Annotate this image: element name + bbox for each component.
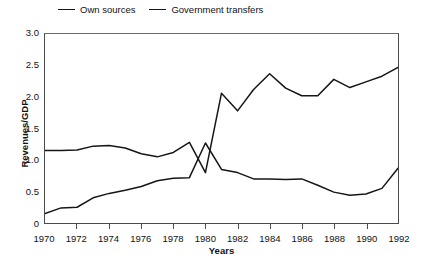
series-line-own-sources: [45, 143, 398, 214]
legend-line-swatch-government-transfers: [149, 9, 166, 10]
x-tick-label: 1978: [163, 233, 184, 244]
x-tick-label: 1982: [227, 233, 248, 244]
chart-legend: Own sources Government transfers: [58, 4, 263, 15]
legend-label-own-sources: Own sources: [80, 4, 135, 15]
series-line-government-transfers: [45, 67, 398, 172]
x-tick-label: 1986: [292, 233, 313, 244]
x-tick-label: 1992: [388, 233, 409, 244]
x-tick-label: 1972: [66, 233, 87, 244]
x-tick-label: 1984: [259, 233, 280, 244]
x-tick-mark: [76, 224, 77, 229]
x-tick-label: 1988: [324, 233, 345, 244]
x-tick-mark: [270, 224, 271, 229]
y-tick-label: 0: [34, 219, 39, 229]
x-axis-title: Years: [44, 245, 399, 256]
x-tick-mark: [141, 224, 142, 229]
x-tick-mark: [302, 224, 303, 229]
y-tick-label: 3.0: [26, 28, 39, 38]
y-tick-label: 2.5: [26, 60, 39, 70]
y-tick-label: 0.5: [26, 187, 39, 197]
legend-item-own-sources: Own sources: [58, 4, 135, 15]
x-tick-mark: [367, 224, 368, 229]
legend-item-government-transfers: Government transfers: [149, 4, 263, 15]
x-tick-mark: [334, 224, 335, 229]
x-tick-mark: [238, 224, 239, 229]
plot-area: [44, 33, 399, 224]
x-tick-label: 1990: [356, 233, 377, 244]
legend-label-government-transfers: Government transfers: [171, 4, 263, 15]
series-lines: [45, 34, 398, 223]
x-tick-label: 1970: [33, 233, 54, 244]
x-tick-mark: [173, 224, 174, 229]
y-axis-title: Revenues/GDP: [19, 79, 30, 189]
line-chart: Own sources Government transfers 00.51.0…: [0, 0, 422, 265]
x-tick-mark: [205, 224, 206, 229]
x-tick-mark: [109, 224, 110, 229]
x-tick-label: 1974: [98, 233, 119, 244]
x-tick-label: 1980: [195, 233, 216, 244]
x-axis-ticks: 1970197219741976197819801982198419861988…: [44, 224, 399, 246]
legend-line-swatch-own-sources: [58, 9, 75, 10]
x-tick-label: 1976: [130, 233, 151, 244]
